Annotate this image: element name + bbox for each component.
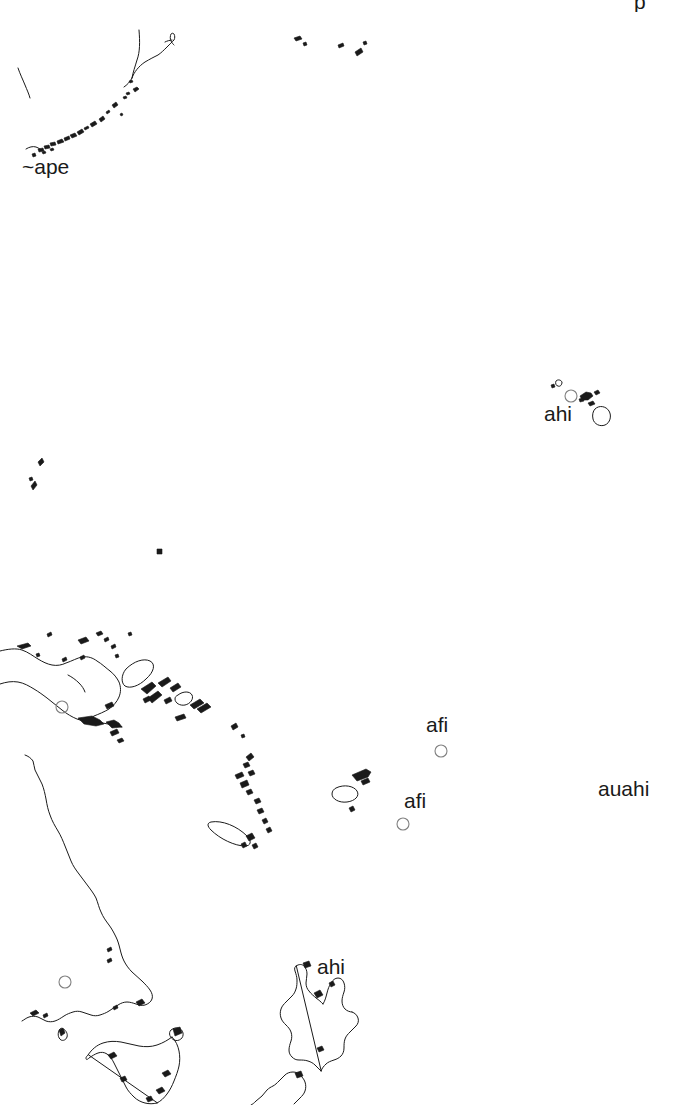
map-label-ahi-hawaii: ahi xyxy=(544,403,572,424)
marker-samoa[interactable] xyxy=(435,745,447,757)
region-vanuatu xyxy=(235,753,272,849)
region-bonin-mariana-specks xyxy=(294,36,367,56)
region-australia-east-coast xyxy=(22,755,152,1022)
map-label-afi-lower: afi xyxy=(404,790,426,811)
marker-hawaii[interactable] xyxy=(565,390,577,402)
map-markers-layer xyxy=(56,390,577,988)
region-mid-pacific-dot xyxy=(157,549,162,554)
map-label-afi-upper: afi xyxy=(426,714,448,735)
region-japan-ryukyu-arc xyxy=(18,30,175,157)
region-fiji xyxy=(332,769,371,812)
map-label-ahi-nz: ahi xyxy=(317,956,345,977)
map-label-auahi: auahi xyxy=(598,778,649,799)
map-canvas[interactable]: p ~ape ahi afi afi auahi ahi xyxy=(0,0,680,1105)
region-bismarck-archipelago xyxy=(78,631,132,743)
region-tasmania xyxy=(58,1027,183,1104)
region-new-zealand xyxy=(251,961,358,1105)
marker-tonga[interactable] xyxy=(397,818,409,830)
region-solomon-islands xyxy=(122,660,245,738)
region-new-guinea xyxy=(0,632,122,728)
map-label-top-clipped: p xyxy=(634,0,646,12)
marker-australia[interactable] xyxy=(59,976,71,988)
region-palau-caroline-specks xyxy=(29,458,44,490)
map-vector-layer xyxy=(0,0,680,1105)
map-label-ape: ~ape xyxy=(22,156,69,177)
